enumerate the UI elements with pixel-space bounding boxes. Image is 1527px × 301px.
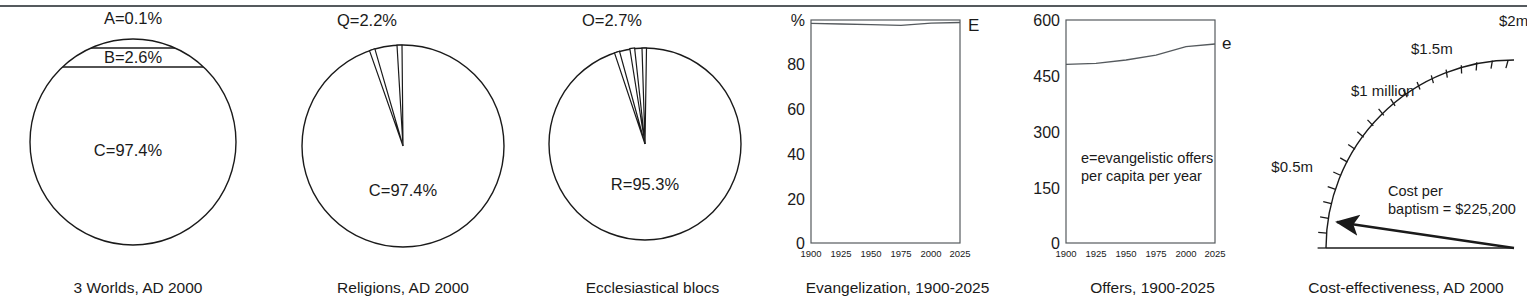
- x-tick-1900: 1900: [800, 248, 821, 259]
- offers-note-line-2: per capita per year: [1081, 168, 1202, 184]
- panel-ecclesiastical-blocs: O=2.7% R=95.3% Ecclesiastical blocs: [530, 0, 775, 301]
- y-tick-percent: %: [791, 12, 805, 29]
- cost-effectiveness-gauge: $0.5m $1 million $1.5m $2m Cost per bapt…: [1285, 0, 1527, 272]
- x-tick-1925: 1925: [1085, 248, 1106, 259]
- gauge-scale-label-2m: $2m: [1499, 12, 1527, 29]
- caption-evangelization: Evangelization, 1900-2025: [775, 279, 1020, 297]
- statistical-figure-panel-strip: A=0.1% B=2.6% C=97.4% 3 Worlds, AD 2000 …: [0, 0, 1527, 301]
- y-tick-80: 80: [787, 56, 805, 73]
- x-tick-1975: 1975: [1145, 248, 1166, 259]
- x-tick-1975: 1975: [890, 248, 911, 259]
- panel-religions: Q=2.2% C=97.4% Religions, AD 2000: [276, 0, 530, 301]
- y-tick-40: 40: [787, 146, 805, 163]
- y-tick-60: 60: [787, 101, 805, 118]
- gauge-scale-label-0-5m: $0.5m: [1271, 158, 1313, 175]
- panel-cost-effectiveness: $0.5m $1 million $1.5m $2m Cost per bapt…: [1285, 0, 1527, 301]
- label-segment-q: Q=2.2%: [337, 11, 397, 29]
- x-tick-2000: 2000: [1175, 248, 1196, 259]
- caption-cost-effectiveness: Cost-effectiveness, AD 2000: [1285, 279, 1527, 297]
- three-worlds-diagram: A=0.1% B=2.6% C=97.4%: [0, 0, 276, 272]
- caption-offers: Offers, 1900-2025: [1020, 279, 1285, 297]
- offers-note-line-1: e=evangelistic offers: [1081, 150, 1213, 166]
- caption-religions: Religions, AD 2000: [276, 279, 530, 297]
- y-tick-300: 300: [1033, 124, 1060, 141]
- gauge-value-note-line-2: baptism = $225,200: [1388, 201, 1516, 217]
- x-tick-1925: 1925: [830, 248, 851, 259]
- y-tick-150: 150: [1033, 180, 1060, 197]
- label-segment-r: R=95.3%: [611, 175, 680, 193]
- gauge-needle: [1337, 222, 1514, 248]
- y-tick-600: 600: [1033, 12, 1060, 29]
- gauge-value-note-line-1: Cost per: [1388, 183, 1443, 199]
- label-segment-c: C=97.4%: [369, 181, 438, 199]
- label-segment-a: A=0.1%: [104, 9, 163, 27]
- caption-ecclesiastical-blocs: Ecclesiastical blocs: [530, 279, 775, 297]
- x-tick-2025: 2025: [1204, 248, 1225, 259]
- y-tick-20: 20: [787, 191, 805, 208]
- evangelization-plot-frame: [811, 20, 960, 243]
- x-tick-1950: 1950: [860, 248, 881, 259]
- evangelization-chart: % 80 60 40 20 0 1900 1925 1950 1975 2000…: [775, 0, 1020, 272]
- label-segment-b: B=2.6%: [104, 48, 163, 66]
- label-segment-o: O=2.7%: [582, 11, 642, 29]
- panel-offers: 600 450 300 150 0 1900 1925 1950 1975 20…: [1020, 0, 1285, 301]
- series-letter-e: e: [1222, 34, 1231, 53]
- offers-plot-frame: [1066, 20, 1215, 243]
- ecclesiastical-blocs-diagram: O=2.7% R=95.3%: [530, 0, 775, 272]
- religions-diagram: Q=2.2% C=97.4%: [276, 0, 530, 272]
- y-tick-450: 450: [1033, 68, 1060, 85]
- x-tick-1900: 1900: [1055, 248, 1076, 259]
- panel-three-worlds: A=0.1% B=2.6% C=97.4% 3 Worlds, AD 2000: [0, 0, 276, 301]
- gauge-scale-label-1-million: $1 million: [1351, 82, 1414, 99]
- caption-three-worlds: 3 Worlds, AD 2000: [0, 279, 276, 297]
- panel-evangelization: % 80 60 40 20 0 1900 1925 1950 1975 2000…: [775, 0, 1020, 301]
- gauge-scale-label-1-5m: $1.5m: [1411, 40, 1453, 57]
- label-segment-c: C=97.4%: [94, 141, 163, 159]
- x-tick-2000: 2000: [920, 248, 941, 259]
- x-tick-2025: 2025: [949, 248, 970, 259]
- series-letter-E: E: [968, 16, 979, 35]
- x-tick-1950: 1950: [1115, 248, 1136, 259]
- offers-chart: 600 450 300 150 0 1900 1925 1950 1975 20…: [1020, 0, 1285, 272]
